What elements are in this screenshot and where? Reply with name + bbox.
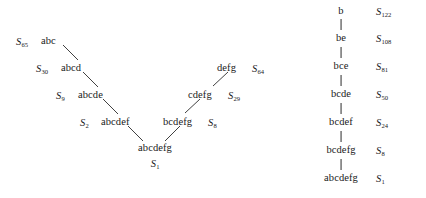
chain-node-b: b <box>338 6 343 17</box>
edge-cdefg-bcdefg <box>185 99 200 113</box>
tree-label-abc: S65 <box>16 37 28 48</box>
chain-label-bcdef: S24 <box>376 118 388 129</box>
chain-connector-6 <box>341 159 342 170</box>
edge-abcde-abcdef <box>103 99 118 114</box>
tree-label-abcde: S9 <box>56 91 64 102</box>
tree-node-abcd: abcd <box>61 63 81 74</box>
chain-node-abcdefg: abcdefg <box>324 173 358 184</box>
tree-node-abcde: abcde <box>78 90 103 101</box>
chain-label-be: S108 <box>376 34 391 45</box>
tree-label-cdefg: S29 <box>228 91 240 102</box>
tree-label-abcdef: S2 <box>80 118 88 129</box>
chain-node-bcdef: bcdef <box>329 117 353 128</box>
chain-label-bcde: S50 <box>376 90 388 101</box>
tree-node-defg: defg <box>217 63 236 74</box>
chain-label-abcdefg: S1 <box>376 174 384 185</box>
figure-canvas: S65 abc S30 abcd S9 abcde S2 abcdef defg… <box>0 0 426 198</box>
tree-node-abc: abc <box>41 36 56 47</box>
edge-abc-abcd <box>63 45 78 60</box>
edge-abcdef-root <box>128 126 143 141</box>
tree-node-cdefg: cdefg <box>188 90 212 101</box>
edge-abcd-abcde <box>83 72 98 87</box>
chain-label-bcdefg: S8 <box>376 146 384 157</box>
tree-node-abcdefg: abcdefg <box>138 143 172 154</box>
chain-connector-5 <box>341 131 342 142</box>
edge-bcdefg-root <box>165 126 180 141</box>
edge-defg-cdefg <box>213 72 228 86</box>
chain-node-bce: bce <box>334 61 349 72</box>
chain-label-bce: S81 <box>376 62 388 73</box>
chain-connector-1 <box>341 19 342 30</box>
chain-node-bcdefg: bcdefg <box>326 145 355 156</box>
chain-connector-3 <box>341 75 342 86</box>
tree-label-abcdefg: S1 <box>151 159 159 170</box>
tree-label-bcdefg: S8 <box>208 118 216 129</box>
chain-connector-2 <box>341 47 342 58</box>
tree-label-defg: S64 <box>252 64 264 75</box>
chain-node-be: be <box>336 33 346 44</box>
tree-node-bcdefg: bcdefg <box>163 117 192 128</box>
tree-label-abcd: S30 <box>36 64 48 75</box>
chain-label-b: S122 <box>376 7 391 18</box>
chain-node-bcde: bcde <box>331 89 351 100</box>
chain-connector-4 <box>341 103 342 114</box>
tree-node-abcdef: abcdef <box>101 117 130 128</box>
